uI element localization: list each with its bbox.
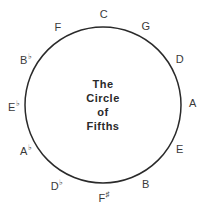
- title-line-1: The: [86, 77, 120, 91]
- title-line-2: Circle: [86, 91, 120, 105]
- sharp-icon: ♯: [106, 190, 110, 199]
- note-label-e: E: [176, 144, 184, 155]
- flat-icon: ♭: [28, 143, 32, 152]
- note-label-f-sharp: F♯: [98, 193, 109, 204]
- note-label-g: G: [141, 21, 150, 32]
- title-line-3: of: [86, 105, 120, 119]
- note-label-b: B: [142, 179, 150, 190]
- note-label-d: D: [176, 54, 184, 65]
- note-label-f: F: [54, 22, 61, 33]
- flat-icon: ♭: [28, 52, 32, 61]
- note-label-a: A: [189, 98, 197, 109]
- note-label-d-flat: D♭: [51, 181, 63, 192]
- note-label-a-flat: A♭: [20, 146, 32, 157]
- note-label-c: C: [100, 9, 108, 20]
- flat-icon: ♭: [16, 99, 20, 108]
- title-line-4: Fifths: [86, 119, 120, 133]
- note-label-b-flat: B♭: [20, 55, 32, 66]
- note-label-e-flat: E♭: [8, 102, 20, 113]
- flat-icon: ♭: [59, 178, 63, 187]
- diagram-title: The Circle of Fifths: [86, 77, 120, 133]
